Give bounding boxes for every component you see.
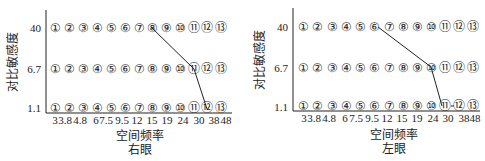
x-tick: 38 bbox=[209, 114, 221, 126]
x-ticks: 3 3.8 4.8 6 7.5 9.5 12 15 19 24 30 38 48 bbox=[301, 112, 481, 124]
marker-row-40: ① ② ③ ④ ⑤ ⑥ ⑦ ⑧ ⑨ ⑩ ⑪ ⑫ ⑬ bbox=[298, 20, 480, 34]
marker: ⑤ bbox=[355, 61, 366, 75]
marker-row-40: ① ② ③ ④ ⑤ ⑥ ⑦ ⑧ ⑨ ⑩ ⑪ ⑫ ⑬ bbox=[50, 21, 228, 35]
marker: ⑤ bbox=[106, 101, 117, 115]
marker: ⑫ bbox=[453, 61, 465, 75]
marker: ③ bbox=[78, 62, 89, 76]
marker: ⑨ bbox=[161, 62, 172, 76]
marker: ② bbox=[312, 61, 323, 75]
marker: ② bbox=[64, 21, 75, 35]
marker: ⑥ bbox=[369, 61, 380, 75]
x-tick: 30 bbox=[443, 112, 455, 124]
marker: ⑦ bbox=[384, 61, 395, 75]
marker: ③ bbox=[78, 21, 89, 35]
marker: ⑪ bbox=[439, 20, 451, 34]
marker: ③ bbox=[327, 61, 338, 75]
marker: ⑫ bbox=[201, 62, 213, 76]
x-tick: 9.5 bbox=[365, 112, 379, 124]
marker: ⑥ bbox=[369, 99, 380, 113]
x-tick: 9.5 bbox=[115, 114, 129, 126]
marker: ⑧ bbox=[147, 101, 158, 115]
x-tick: 48 bbox=[470, 112, 482, 124]
marker: ⑧ bbox=[398, 61, 409, 75]
marker-row-6.7: ① ② ③ ④ ⑤ ⑥ ⑦ ⑧ ⑨ ⑩ ⑪ ⑫ ⑬ bbox=[50, 62, 228, 76]
marker: ⑩ bbox=[175, 101, 186, 115]
marker: ④ bbox=[341, 99, 352, 113]
marker: ⑧ bbox=[147, 62, 158, 76]
x-tick: 30 bbox=[194, 114, 206, 126]
x-tick: 6 bbox=[342, 112, 348, 124]
marker: ⑤ bbox=[355, 99, 366, 113]
marker: ⑬ bbox=[215, 62, 227, 76]
marker: ⑤ bbox=[355, 20, 366, 34]
marker: ① bbox=[50, 62, 61, 76]
marker: ⑦ bbox=[134, 101, 145, 115]
y-axis-label: 对比敏感度 bbox=[252, 30, 267, 90]
marker: ⑬ bbox=[215, 21, 227, 35]
x-tick: 4.8 bbox=[73, 114, 87, 126]
y-tick-40: 40 bbox=[30, 22, 42, 34]
marker: ③ bbox=[78, 101, 89, 115]
x-tick: 24 bbox=[178, 114, 190, 126]
x-tick: 15 bbox=[147, 114, 159, 126]
marker: ⑩ bbox=[175, 62, 186, 76]
right-eye-chart: 对比敏感度 40 6.7 1.1 ① ② ③ ④ ⑤ ⑥ ⑦ ⑧ ⑨ ⑩ ⑪ ⑫… bbox=[0, 0, 242, 161]
x-tick: 38 bbox=[459, 112, 471, 124]
marker: ③ bbox=[327, 20, 338, 34]
marker: ⑨ bbox=[161, 101, 172, 115]
marker: ② bbox=[312, 99, 323, 113]
y-tick-1.1: 1.1 bbox=[27, 102, 41, 114]
marker: ② bbox=[64, 62, 75, 76]
marker: ⑫ bbox=[201, 21, 213, 35]
x-tick: 19 bbox=[412, 112, 424, 124]
x-tick: 19 bbox=[162, 114, 174, 126]
marker: ⑥ bbox=[120, 62, 131, 76]
marker: ① bbox=[50, 21, 61, 35]
marker: ② bbox=[312, 20, 323, 34]
marker: ⑪ bbox=[188, 21, 200, 35]
marker: ⑩ bbox=[426, 20, 437, 34]
marker: ⑥ bbox=[120, 21, 131, 35]
marker: ⑫ bbox=[453, 99, 465, 113]
y-tick-6.7: 6.7 bbox=[27, 63, 41, 75]
marker: ① bbox=[298, 61, 309, 75]
marker: ⑧ bbox=[398, 20, 409, 34]
marker: ⑦ bbox=[384, 99, 395, 113]
x-ticks: 3 3.8 4.8 6 7.5 9.5 12 15 19 24 30 38 48 bbox=[52, 114, 232, 126]
marker: ② bbox=[64, 101, 75, 115]
x-tick: 3.8 bbox=[307, 112, 321, 124]
y-tick-6.7: 6.7 bbox=[274, 62, 288, 74]
y-axis-label: 对比敏感度 bbox=[5, 32, 20, 92]
y-tick-1.1: 1.1 bbox=[274, 101, 288, 113]
marker: ⑩ bbox=[426, 99, 437, 113]
x-axis-label: 空间频率 bbox=[116, 128, 164, 143]
marker: ⑪ bbox=[188, 101, 200, 115]
marker: ⑤ bbox=[106, 62, 117, 76]
marker: ① bbox=[298, 20, 309, 34]
x-tick: 48 bbox=[221, 114, 233, 126]
marker: ⑨ bbox=[412, 61, 423, 75]
marker: ⑫ bbox=[453, 20, 465, 34]
marker: ⑦ bbox=[134, 62, 145, 76]
marker: ④ bbox=[92, 21, 103, 35]
x-tick: 24 bbox=[428, 112, 440, 124]
marker-row-6.7: ① ② ③ ④ ⑤ ⑥ ⑦ ⑧ ⑨ ⑩ ⑪ ⑫ ⑬ bbox=[298, 61, 480, 75]
marker: ⑬ bbox=[467, 99, 479, 113]
marker: ⑥ bbox=[369, 20, 380, 34]
marker: ⑬ bbox=[215, 101, 227, 115]
marker: ⑨ bbox=[161, 21, 172, 35]
x-tick: 12 bbox=[132, 114, 143, 126]
marker: ③ bbox=[327, 99, 338, 113]
x-tick: 15 bbox=[397, 112, 409, 124]
marker: ④ bbox=[341, 20, 352, 34]
eye-label: 左眼 bbox=[382, 141, 406, 156]
marker: ⑪ bbox=[439, 61, 451, 75]
x-tick: 4.8 bbox=[322, 112, 336, 124]
x-tick: 3.8 bbox=[58, 114, 72, 126]
left-eye-chart: 对比敏感度 40 6.7 1.1 ① ② ③ ④ ⑤ ⑥ ⑦ ⑧ ⑨ ⑩ ⑪ ⑫… bbox=[242, 0, 485, 161]
marker: ⑨ bbox=[412, 99, 423, 113]
marker: ① bbox=[50, 101, 61, 115]
marker: ① bbox=[298, 99, 309, 113]
x-tick: 7.5 bbox=[349, 112, 363, 124]
y-tick-40: 40 bbox=[277, 21, 289, 33]
